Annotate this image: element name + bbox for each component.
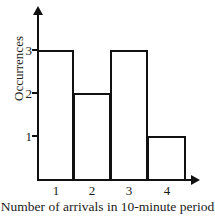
histogram-bar	[37, 50, 74, 181]
x-axis-tick	[184, 174, 186, 181]
histogram-bar	[73, 93, 111, 181]
y-axis-title: Occurrences	[12, 9, 25, 129]
x-axis-tick-label: 4	[157, 184, 177, 198]
histogram-bar	[110, 50, 148, 181]
y-axis-arrow-icon	[33, 6, 43, 15]
y-axis-tick-label: 1	[18, 130, 32, 143]
x-axis-tick-label: 2	[82, 184, 102, 198]
x-axis-arrow-icon	[191, 175, 200, 185]
x-axis-tick	[147, 174, 149, 181]
histogram-figure: 1 2 3 1 2 3 4 Occurrences Number of arri…	[0, 0, 215, 217]
x-axis-tick-label: 1	[46, 184, 66, 198]
x-axis-tick	[110, 174, 112, 181]
x-axis-tick	[73, 174, 75, 181]
histogram-bar	[147, 136, 186, 181]
x-axis-tick-label: 3	[119, 184, 139, 198]
x-axis-title: Number of arrivals in 10-minute period	[0, 199, 215, 214]
